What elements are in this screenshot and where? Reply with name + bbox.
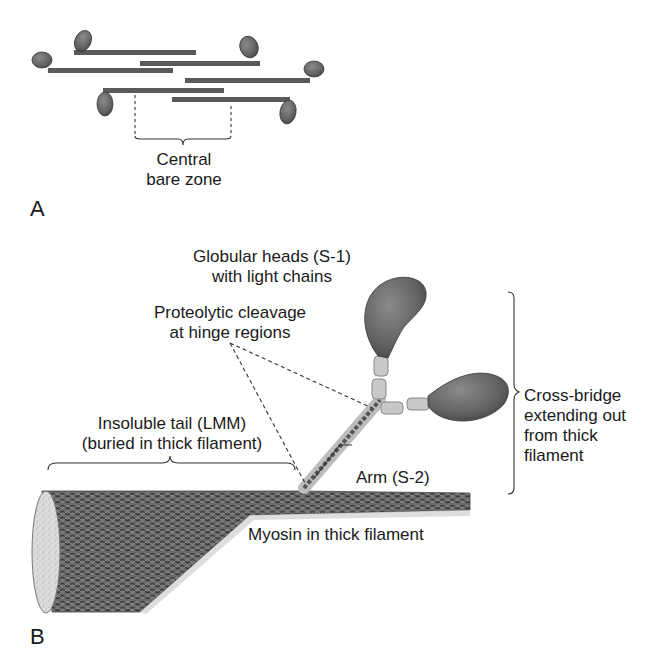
label-line: Cross-bridge xyxy=(524,386,626,406)
cleavage-pointers xyxy=(230,343,372,483)
label-line: filament xyxy=(524,446,626,466)
label-line: bare zone xyxy=(136,170,232,190)
label-line: from thick xyxy=(524,426,626,446)
globular-heads xyxy=(365,277,509,421)
cross-bridge-label: Cross-bridge extending out from thick fi… xyxy=(524,386,626,466)
label-line: with light chains xyxy=(172,267,372,287)
thick-filament xyxy=(32,491,470,614)
cross-bridge-bracket xyxy=(508,292,519,494)
light-chains xyxy=(372,356,429,414)
label-line: Globular heads (S-1) xyxy=(172,247,372,267)
panel-label-a: A xyxy=(30,196,45,222)
label-line: (buried in thick filament) xyxy=(52,434,292,454)
head-upper xyxy=(365,277,426,358)
filament-cross-section xyxy=(32,491,60,613)
bare-zone-bracket xyxy=(135,95,231,145)
arm-s2-label: Arm (S-2) xyxy=(356,468,430,488)
myosin-molecule xyxy=(140,34,261,66)
panel-label-b: B xyxy=(30,624,45,650)
globular-heads-label: Globular heads (S-1) with light chains xyxy=(172,247,372,287)
central-bare-zone-label: Central bare zone xyxy=(136,150,232,190)
myosin-molecule xyxy=(172,97,298,125)
label-line: Insoluble tail (LMM) xyxy=(52,414,292,434)
myosin-molecule xyxy=(71,28,196,55)
tail-bracket xyxy=(48,456,295,470)
panel-a-molecules xyxy=(32,28,324,145)
head-lower xyxy=(428,373,508,421)
myosin-thick-filament-label: Myosin in thick filament xyxy=(248,525,424,545)
label-line: Central xyxy=(136,150,232,170)
myosin-diagram xyxy=(0,0,666,665)
proteolytic-cleavage-label: Proteolytic cleavage at hinge regions xyxy=(130,303,330,343)
insoluble-tail-label: Insoluble tail (LMM) (buried in thick fi… xyxy=(52,414,292,454)
label-line: Proteolytic cleavage xyxy=(130,303,330,323)
label-line: extending out xyxy=(524,406,626,426)
label-line: at hinge regions xyxy=(130,323,330,343)
